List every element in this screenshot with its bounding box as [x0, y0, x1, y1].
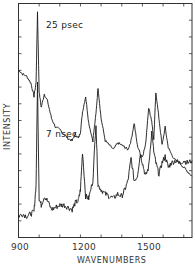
x-tick-label-1500: 1500 [137, 242, 161, 252]
plot-frame [19, 4, 193, 238]
x-axis-ticks [39, 4, 184, 238]
spectrum-25psec-line [19, 12, 193, 176]
x-tick-label-1200: 1200 [72, 242, 96, 252]
chart-canvas [0, 0, 195, 272]
x-axis-label: WAVENUMBERS [77, 256, 146, 265]
annotation-7nsec: 7 nsec [46, 129, 77, 139]
annotation-25psec: 25 psec [46, 20, 83, 30]
y-axis-ticks [19, 20, 193, 221]
spectrum-7nsec-line [19, 82, 193, 219]
y-axis-label: INTENSITY [3, 103, 12, 150]
x-tick-label-900: 900 [11, 242, 29, 252]
